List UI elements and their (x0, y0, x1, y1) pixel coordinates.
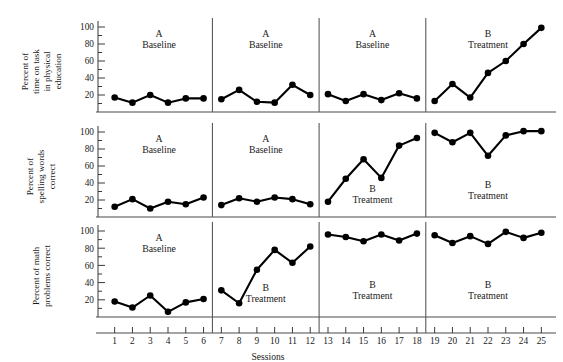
phase-label: Baseline (142, 39, 176, 50)
series-line-time-on-task-phase-1 (115, 95, 204, 103)
x-tick-label: 24 (519, 336, 529, 346)
y-tick-label: 40 (85, 73, 95, 83)
phase-label: Treatment (468, 39, 508, 50)
data-point (218, 96, 225, 103)
x-tick-label: 5 (183, 336, 188, 346)
x-tick-label: 25 (537, 336, 547, 346)
x-axis: 1234567891011121314151617181920212223242… (96, 317, 556, 362)
y-tick-label: 60 (85, 261, 95, 271)
phase-letter: A (156, 133, 163, 144)
x-tick-label: 3 (148, 336, 153, 346)
y-tick-label: 80 (85, 39, 95, 49)
data-point (271, 99, 278, 106)
data-point (111, 298, 118, 305)
x-tick-label: 16 (377, 336, 387, 346)
series-line-math-problems-phase-3 (328, 234, 417, 242)
data-point (467, 130, 474, 137)
data-point (467, 94, 474, 101)
data-point (289, 82, 296, 89)
y-tick-label: 100 (80, 226, 94, 236)
data-point (165, 198, 172, 205)
data-point (414, 230, 421, 237)
data-point (325, 198, 332, 205)
data-point (307, 243, 314, 250)
phase-letter: B (369, 279, 376, 290)
data-point (449, 240, 456, 247)
data-point (485, 70, 492, 77)
y-axis-title-line: in physical (42, 51, 52, 92)
multiple-baseline-chart: 20406080100Percent oftime on taskin phys… (0, 0, 563, 362)
data-point (165, 99, 172, 106)
data-point (396, 237, 403, 244)
series-line-time-on-task-phase-3 (328, 93, 417, 101)
y-axis-title-line: education (53, 53, 63, 89)
data-point (289, 260, 296, 267)
data-point (200, 194, 207, 201)
y-tick-label: 80 (85, 244, 95, 254)
x-tick-label: 21 (466, 336, 476, 346)
phase-label: Baseline (249, 144, 283, 155)
phase-letter: B (485, 279, 492, 290)
data-point (147, 205, 154, 212)
phase-letter: A (262, 28, 269, 39)
data-point (325, 91, 332, 98)
data-point (254, 266, 261, 273)
phase-label: Treatment (246, 293, 286, 304)
y-axis-title-line: correct (47, 163, 57, 189)
x-tick-label: 23 (501, 336, 511, 346)
data-point (342, 98, 349, 105)
phase-label: Treatment (468, 290, 508, 301)
y-axis-title-line: Percent of (25, 157, 35, 195)
data-point (396, 142, 403, 149)
y-tick-label: 20 (85, 295, 95, 305)
x-tick-label: 22 (483, 336, 493, 346)
data-point (218, 202, 225, 209)
x-tick-label: 18 (412, 336, 422, 346)
data-point (307, 92, 314, 99)
x-tick-label: 11 (288, 336, 297, 346)
data-point (111, 94, 118, 101)
panel-3: 20406080100Percent of mathproblems corre… (31, 222, 557, 317)
x-tick-label: 14 (341, 336, 351, 346)
phase-letter: B (485, 179, 492, 190)
data-point (147, 92, 154, 99)
x-tick-label: 10 (270, 336, 280, 346)
phase-label: Baseline (142, 243, 176, 254)
data-point (218, 287, 225, 294)
data-point (431, 130, 438, 137)
data-point (378, 97, 385, 104)
series-line-time-on-task-phase-2 (221, 85, 310, 103)
series-line-spelling-words-phase-1 (115, 197, 204, 208)
data-point (271, 194, 278, 201)
y-tick-label: 40 (85, 178, 95, 188)
phase-letter: B (263, 282, 270, 293)
phase-letter: A (369, 28, 376, 39)
data-point (182, 299, 189, 306)
data-point (538, 128, 545, 135)
data-point (200, 296, 207, 303)
x-tick-label: 20 (448, 336, 458, 346)
series-line-spelling-words-phase-2 (221, 197, 310, 205)
y-tick-label: 20 (85, 90, 95, 100)
x-tick-label: 7 (219, 336, 224, 346)
panel-2: 20406080100Percent ofspelling wordscorre… (25, 123, 556, 217)
y-axis-title-line: Percent of math (31, 247, 41, 306)
data-point (378, 231, 385, 238)
data-point (307, 201, 314, 208)
y-tick-label: 60 (85, 161, 95, 171)
phase-letter: A (156, 232, 163, 243)
y-tick-label: 100 (80, 22, 94, 32)
x-axis-title: Sessions (251, 351, 284, 362)
y-tick-label: 80 (85, 144, 95, 154)
data-point (449, 139, 456, 146)
x-tick-label: 6 (201, 336, 206, 346)
panel-1: 20406080100Percent oftime on taskin phys… (20, 18, 557, 112)
x-tick-label: 12 (306, 336, 316, 346)
data-point (254, 198, 261, 205)
data-point (360, 156, 367, 163)
x-tick-label: 9 (255, 336, 260, 346)
y-axis-title-line: time on task (31, 49, 41, 94)
data-point (414, 95, 421, 102)
data-point (342, 234, 349, 241)
data-point (520, 128, 527, 135)
